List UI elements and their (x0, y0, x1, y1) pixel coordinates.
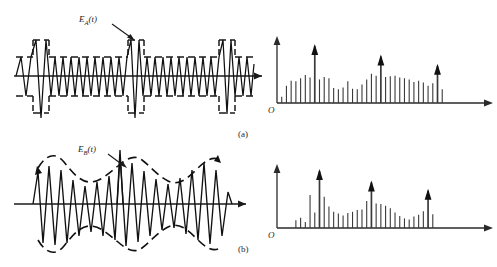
panel-b-spectrum: O (268, 164, 493, 240)
waveform-a-label: EA(t) (78, 14, 97, 26)
spectrum-b-axes: O (268, 164, 493, 240)
panel-a-waveform: EA(t) (a) (14, 14, 262, 139)
spectrum-a-lines (282, 44, 443, 103)
waveform-b-label: EB(t) (77, 144, 96, 156)
spectrum-arrowhead (434, 64, 441, 75)
spectrum-b-lines (296, 169, 433, 228)
figure-container: EA(t) (a) O (0, 0, 497, 267)
figure-svg: EA(t) (a) O (0, 0, 497, 267)
panel-b-waveform: EB(t) (b) (14, 144, 249, 254)
spectrum-arrowhead (311, 44, 318, 55)
panel-a-caption: (a) (238, 129, 248, 139)
waveform-a-label-group: EA(t) (78, 14, 135, 41)
spectrum-arrowhead (316, 169, 323, 180)
spectrum-a-origin-label: O (268, 105, 275, 115)
spectrum-b-origin-label: O (268, 230, 275, 240)
spectrum-arrowhead (377, 55, 384, 66)
spectrum-arrowhead (425, 189, 432, 200)
panel-b-caption: (b) (238, 244, 249, 254)
waveform-b-axis (14, 201, 246, 208)
spectrum-arrowhead (368, 180, 375, 191)
panel-a-spectrum: O (268, 36, 493, 115)
